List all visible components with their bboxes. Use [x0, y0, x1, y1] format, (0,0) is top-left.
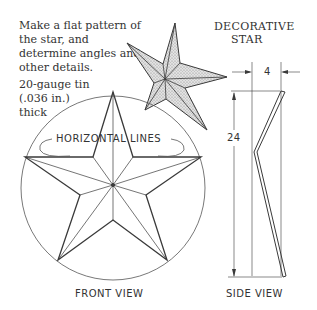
pictorial-star [127, 23, 227, 130]
dimension-width: 4 [264, 66, 271, 77]
drawing-canvas [0, 0, 317, 310]
front-view-label: FRONT VIEW [75, 288, 143, 299]
front-view-star [25, 92, 201, 260]
side-view [228, 62, 300, 277]
dimension-height: 24 [227, 132, 241, 143]
horizontal-lines-label: HORIZONTAL LINES [56, 133, 161, 144]
side-view-label: SIDE VIEW [226, 288, 283, 299]
